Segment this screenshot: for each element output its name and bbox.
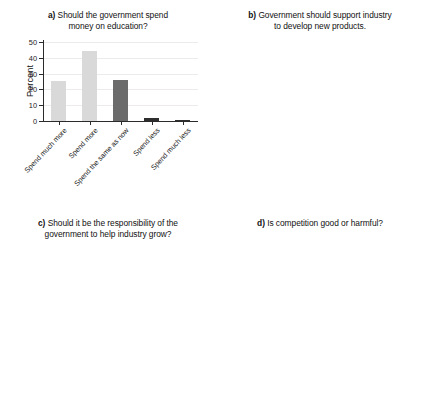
panel-c-title-label: c) — [38, 218, 45, 228]
panel-c-title-line1: Should it be the responsibility of the — [48, 218, 178, 228]
panel-c-title-line2: government to help industry grow? — [45, 229, 172, 239]
chart-panel-d: d) Is competition good or harmful? Perce… — [212, 208, 424, 415]
x-tick-label: Spend more — [66, 126, 99, 160]
y-tick-label: 10 — [15, 101, 37, 110]
panel-d-title-line1: Is competition good or harmful? — [267, 218, 383, 228]
panel-a-y-axis — [43, 40, 44, 121]
panel-a-bars — [43, 42, 198, 121]
panel-a-title-line1: Should the government spend — [58, 10, 168, 20]
panel-b-title: b) Government should support industry to… — [218, 10, 422, 33]
bar — [113, 80, 129, 121]
panel-a-y-axis-label: Percent — [25, 61, 35, 101]
panel-a-plot-area: Percent 01020304050 Spend much moreSpend… — [43, 42, 198, 121]
x-tick-label: Spend less — [131, 126, 161, 158]
x-tick-label: Spend much more — [22, 126, 68, 175]
bar — [51, 81, 67, 121]
panel-a-title-line2: money on education? — [68, 21, 147, 31]
panel-a-title-label: a) — [48, 10, 55, 20]
panel-b-title-line2: to develop new products. — [274, 21, 366, 31]
y-tick-label: 50 — [15, 38, 37, 47]
panel-d-title: d) Is competition good or harmful? — [218, 218, 422, 229]
bar — [82, 51, 98, 121]
y-tick-label: 20 — [15, 85, 37, 94]
panel-b-title-line1: Government should support industry — [258, 10, 391, 20]
y-tick-label: 40 — [15, 53, 37, 62]
panel-d-title-label: d) — [257, 218, 265, 228]
chart-panel-a: a) Should the government spend money on … — [0, 0, 212, 207]
panel-b-title-label: b) — [248, 10, 256, 20]
panel-a-title: a) Should the government spend money on … — [6, 10, 210, 33]
chart-panel-c: c) Should it be the responsibility of th… — [0, 208, 212, 415]
panel-c-title: c) Should it be the responsibility of th… — [6, 218, 210, 241]
x-tick-label: Spend the same as now — [72, 126, 130, 188]
panel-a-x-tick-labels: Spend much moreSpend moreSpend the same … — [43, 121, 198, 201]
y-tick-label: 0 — [15, 117, 37, 126]
y-tick-label: 30 — [15, 69, 37, 78]
chart-panel-b: b) Government should support industry to… — [212, 0, 424, 207]
figure-panel-grid: a) Should the government spend money on … — [0, 0, 424, 415]
